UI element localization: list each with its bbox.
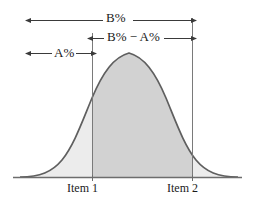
label-b-minus-a-percent: B% − A% — [107, 30, 160, 43]
label-b-percent: B% — [106, 11, 126, 24]
label-item-1: Item 1 — [67, 182, 98, 194]
label-item-2: Item 2 — [167, 182, 198, 194]
label-a-percent: A% — [54, 46, 74, 59]
region-item1-to-item2 — [20, 53, 238, 177]
distribution-figure: B% B% − A% A% Item 1 Item 2 — [0, 0, 255, 203]
